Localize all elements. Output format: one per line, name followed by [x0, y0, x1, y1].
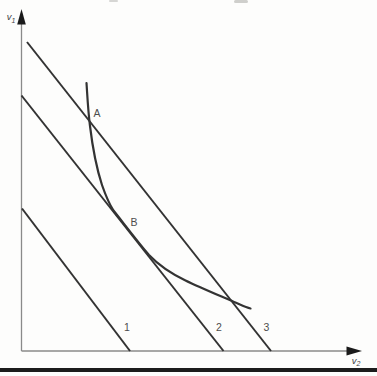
y-axis-arrow-icon: [17, 9, 26, 25]
figure-canvas: v1 v2 1 2 3 A B: [0, 0, 377, 376]
budget-line-1: [22, 209, 130, 352]
point-label-b: B: [130, 216, 137, 228]
budget-line-2-label: 2: [216, 321, 222, 333]
x-axis-label: v2: [352, 355, 361, 368]
budget-line-1-label: 1: [124, 321, 130, 333]
point-label-a: A: [93, 107, 100, 119]
indifference-curve: [87, 83, 251, 309]
x-axis-label-subscript: 2: [355, 360, 360, 367]
figure-page: v1 v2 1 2 3 A B: [0, 0, 377, 376]
y-axis-label-subscript: 1: [11, 17, 15, 24]
budget-line-3-label: 3: [264, 321, 270, 333]
y-axis-label: v1: [7, 11, 16, 24]
budget-line-3: [27, 42, 271, 351]
page-divider-rule: [0, 368, 377, 372]
